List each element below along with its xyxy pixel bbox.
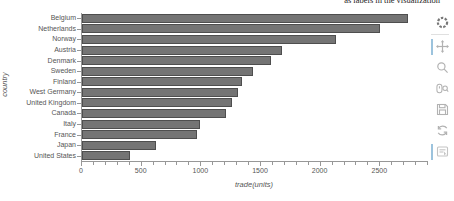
x-minor-tick — [188, 162, 189, 165]
y-tick-label: Canada — [0, 109, 76, 116]
save-icon[interactable] — [431, 102, 449, 118]
x-minor-tick — [296, 162, 297, 165]
y-tick-label: United States — [0, 152, 76, 159]
y-tick-label: Sweden — [0, 67, 76, 74]
bar — [82, 14, 408, 23]
bar — [82, 151, 130, 160]
x-major-tick — [379, 162, 380, 166]
bar — [82, 141, 156, 150]
reset-icon[interactable] — [431, 123, 449, 139]
bar — [82, 98, 232, 107]
y-tick — [77, 71, 81, 72]
x-minor-tick — [236, 162, 237, 165]
x-minor-tick — [105, 162, 106, 165]
x-minor-tick — [332, 162, 333, 165]
y-tick-label: France — [0, 131, 76, 138]
plot-area[interactable] — [81, 13, 428, 162]
x-major-tick — [320, 162, 321, 166]
y-tick-label: Austria — [0, 46, 76, 53]
bokeh-toolbar — [428, 12, 451, 162]
y-tick — [77, 39, 81, 40]
bar — [82, 24, 380, 33]
toolbar-separator — [431, 34, 449, 35]
y-tick-label: Norway — [0, 35, 76, 42]
y-tick-label: Netherlands — [0, 25, 76, 32]
x-tick-label: 2000 — [312, 167, 328, 174]
bar — [82, 120, 200, 129]
x-minor-tick — [415, 162, 416, 165]
x-axis-title: trade(units) — [81, 180, 427, 189]
x-minor-tick — [153, 162, 154, 165]
y-axis-labels: BelgiumNetherlandsNorwayAustriaDenmarkSw… — [0, 13, 76, 161]
box-zoom-icon[interactable] — [431, 60, 449, 76]
x-minor-tick — [224, 162, 225, 165]
x-minor-tick — [212, 162, 213, 165]
bokeh-figure: as labels in the visualization country B… — [0, 0, 454, 201]
x-minor-tick — [391, 162, 392, 165]
bar — [82, 88, 238, 97]
y-tick-label: Denmark — [0, 57, 76, 64]
wheel-zoom-icon[interactable] — [431, 81, 449, 97]
x-minor-tick — [427, 162, 428, 165]
y-tick-label: West Germany — [0, 88, 76, 95]
x-tick-label: 2500 — [372, 167, 388, 174]
x-minor-tick — [284, 162, 285, 165]
y-tick — [77, 82, 81, 83]
y-tick — [77, 124, 81, 125]
x-tick-label: 0 — [79, 167, 83, 174]
bar — [82, 46, 282, 55]
x-minor-tick — [344, 162, 345, 165]
y-tick — [77, 92, 81, 93]
x-minor-tick — [403, 162, 404, 165]
y-tick — [77, 50, 81, 51]
x-tick-label: 500 — [135, 167, 147, 174]
hover-icon[interactable] — [431, 144, 449, 160]
x-minor-tick — [248, 162, 249, 165]
x-minor-tick — [93, 162, 94, 165]
x-major-tick — [200, 162, 201, 166]
x-minor-tick — [117, 162, 118, 165]
bar — [82, 109, 226, 118]
x-minor-tick — [272, 162, 273, 165]
y-tick-label: Italy — [0, 120, 76, 127]
bokeh-logo-icon[interactable] — [431, 15, 449, 31]
x-major-tick — [81, 162, 82, 166]
y-tick — [77, 135, 81, 136]
x-major-tick — [141, 162, 142, 166]
y-tick — [77, 18, 81, 19]
y-tick-label: Belgium — [0, 14, 76, 21]
y-tick-label: Finland — [0, 78, 76, 85]
y-tick — [77, 156, 81, 157]
y-tick — [77, 103, 81, 104]
bar — [82, 35, 336, 44]
x-minor-tick — [165, 162, 166, 165]
clipped-caption: as labels in the visualization — [344, 0, 440, 4]
x-minor-tick — [129, 162, 130, 165]
x-tick-label: 1000 — [193, 167, 209, 174]
bar — [82, 56, 271, 65]
x-minor-tick — [367, 162, 368, 165]
y-tick — [77, 61, 81, 62]
x-minor-tick — [355, 162, 356, 165]
bar — [82, 67, 253, 76]
x-axis: 05001000150020002500 — [81, 162, 427, 178]
x-minor-tick — [176, 162, 177, 165]
y-tick — [77, 145, 81, 146]
y-tick — [77, 29, 81, 30]
x-minor-tick — [308, 162, 309, 165]
x-tick-label: 1500 — [252, 167, 268, 174]
y-tick-label: Japan — [0, 141, 76, 148]
pan-icon[interactable] — [431, 39, 449, 55]
y-tick — [77, 113, 81, 114]
y-tick-label: United Kingdom — [0, 99, 76, 106]
bar — [82, 130, 197, 139]
bar — [82, 77, 242, 86]
x-major-tick — [260, 162, 261, 166]
